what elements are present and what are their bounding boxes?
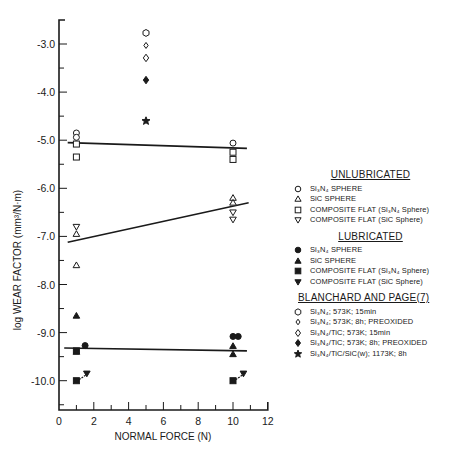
data-point (82, 343, 88, 349)
data-point (144, 42, 148, 48)
diamond-open-icon (292, 328, 304, 338)
legend-item: Si₃N₄/TiC; 573K; 8h; PREOXIDED (292, 338, 449, 349)
data-point (73, 348, 79, 354)
series-triangle-down-open (73, 210, 236, 230)
data-point (143, 30, 149, 37)
data-point (230, 351, 237, 357)
star-filled-icon (292, 349, 304, 359)
marker-tail (236, 375, 243, 380)
y-tick-label: -7.0 (37, 230, 55, 242)
data-point (230, 210, 237, 216)
series-hexagon-open (143, 30, 149, 37)
legend-item-label: Si₃N₄ SPHERE (310, 184, 362, 195)
legend-item: Si₃N₄/TiC; 573K; 15min (292, 328, 449, 339)
legend-item-label: Si₃N₄ SPHERE (310, 245, 362, 256)
data-point (230, 378, 236, 384)
legend-item-label: COMPOSITE FLAT (SiC Sphere) (310, 277, 423, 288)
data-point (73, 141, 79, 147)
legend-item-label: SiC SPHERE (310, 256, 356, 267)
hexagon-open-icon (292, 307, 304, 317)
data-point (73, 224, 80, 230)
x-tick-label: 4 (126, 415, 132, 427)
series-star-filled (142, 117, 150, 125)
data-point (73, 378, 79, 384)
triangle-up-open-icon (292, 194, 304, 204)
x-axis-label: NORMAL FORCE (N) (115, 431, 212, 442)
legend-item-label: Si₃N₄/TiC/SiC(w); 1173K; 8h (310, 349, 407, 360)
legend-item-label: Si₃N₄; 573K; 8h; PREOXIDED (310, 317, 413, 328)
square-open-icon (292, 205, 304, 215)
legend-item: COMPOSITE FLAT (SiC Sphere) (292, 277, 449, 288)
diamond-filled-icon (292, 338, 304, 348)
diamond-open-small-icon (292, 317, 304, 327)
series-triangle-up-open (73, 195, 236, 268)
legend-header-blanchard: BLANCHARD AND PAGE(7) (292, 293, 449, 304)
legend-item: COMPOSITE FLAT (SiC Sphere) (292, 215, 449, 226)
legend-item-label: Si₃N₄/TiC; 573K; 15min (310, 328, 390, 339)
fit-line (68, 203, 249, 242)
legend-item: Si₃N₄; 573K; 8h; PREOXIDED (292, 317, 449, 328)
data-point (235, 333, 241, 339)
fit-line (64, 348, 247, 351)
y-tick-label: -4.0 (37, 86, 55, 98)
legend-item-label: SiC SPHERE (310, 194, 356, 205)
triangle-down-open-icon (292, 215, 304, 225)
legend-group-unlubricated: UNLUBRICATED Si₃N₄ SPHERESiC SPHERECOMPO… (292, 170, 449, 226)
triangle-up-filled-icon (292, 256, 304, 266)
legend-item-label: COMPOSITE FLAT (Si₃N₄ Sphere) (310, 205, 429, 216)
data-point (230, 156, 236, 162)
data-point (143, 54, 148, 62)
y-tick-label: -8.0 (37, 279, 55, 291)
y-tick-label: -6.0 (37, 182, 55, 194)
legend-item: COMPOSITE FLAT (Si₃N₄ Sphere) (292, 205, 449, 216)
fit-line (68, 143, 247, 149)
y-tick-label: -10.0 (31, 375, 55, 387)
legend-item: SiC SPHERE (292, 194, 449, 205)
series-diamond-open (143, 54, 148, 62)
legend-item-label: Si₃N₄; 573K; 15min (310, 307, 376, 318)
data-point (73, 154, 79, 160)
legend-group-lubricated: LUBRICATED Si₃N₄ SPHERESiC SPHERECOMPOSI… (292, 232, 449, 288)
x-tick-label: 8 (195, 415, 201, 427)
circle-open-icon (292, 184, 304, 194)
legend-item-label: Si₃N₄/TiC; 573K; 8h; PREOXIDED (310, 338, 427, 349)
series-diamond-open-small (144, 42, 148, 48)
x-tick-label: 6 (160, 415, 166, 427)
data-points (73, 30, 247, 384)
legend: UNLUBRICATED Si₃N₄ SPHERESiC SPHERECOMPO… (292, 168, 449, 365)
x-tick-label: 0 (56, 415, 62, 427)
x-tick-label: 12 (262, 415, 274, 427)
marker-tail (79, 375, 86, 380)
legend-item-label: COMPOSITE FLAT (SiC Sphere) (310, 215, 423, 226)
y-tick-label: -9.0 (37, 327, 55, 339)
data-point (230, 343, 237, 349)
legend-item: Si₃N₄; 573K; 15min (292, 307, 449, 318)
data-point (73, 134, 79, 140)
data-point (73, 262, 80, 268)
data-point (142, 117, 150, 125)
triangle-down-filled-icon (292, 277, 304, 287)
legend-header-lubricated: LUBRICATED (292, 232, 449, 243)
legend-item: COMPOSITE FLAT (Si₃N₄ Sphere) (292, 266, 449, 277)
legend-item: Si₃N₄ SPHERE (292, 245, 449, 256)
legend-header-unlubricated: UNLUBRICATED (292, 170, 449, 181)
data-point (143, 76, 148, 84)
legend-item: Si₃N₄ SPHERE (292, 184, 449, 195)
legend-item: SiC SPHERE (292, 256, 449, 267)
y-axis-label: log WEAR FACTOR (mm³/N·m) (12, 190, 23, 330)
circle-filled-icon (292, 245, 304, 255)
data-point (73, 312, 80, 318)
x-tick-label: 2 (91, 415, 97, 427)
series-diamond-filled (143, 76, 148, 84)
legend-item-label: COMPOSITE FLAT (Si₃N₄ Sphere) (310, 266, 429, 277)
legend-group-blanchard: BLANCHARD AND PAGE(7) Si₃N₄; 573K; 15min… (292, 293, 449, 359)
data-point (230, 140, 236, 146)
series-square-filled (73, 348, 236, 384)
y-tick-label: -5.0 (37, 134, 55, 146)
data-point (230, 217, 237, 223)
series-circle-filled (82, 333, 241, 348)
y-tick-label: -3.0 (37, 38, 55, 50)
data-point (230, 149, 236, 155)
legend-item: Si₃N₄/TiC/SiC(w); 1173K; 8h (292, 349, 449, 360)
series-triangle-down-filled (84, 371, 247, 377)
